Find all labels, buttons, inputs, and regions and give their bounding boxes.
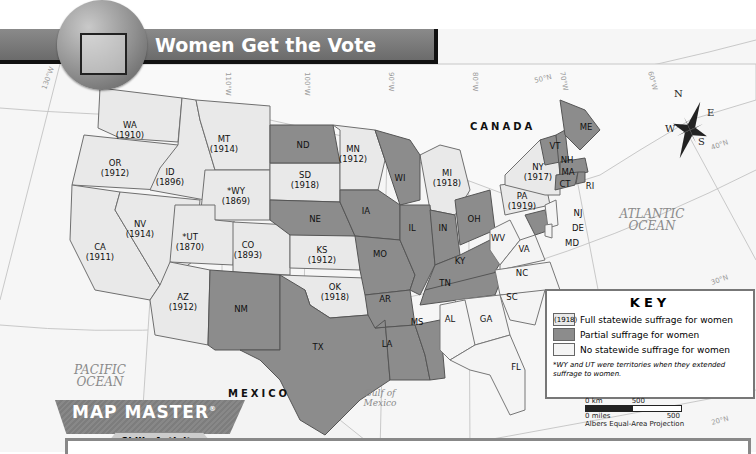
svg-text:(1896): (1896) [156, 177, 184, 187]
svg-text:90°W: 90°W [387, 72, 395, 91]
svg-text:SD: SD [299, 170, 311, 180]
svg-text:100°W: 100°W [303, 72, 311, 96]
svg-text:NY: NY [532, 162, 544, 172]
map-master-logo: MAP MASTER® [72, 402, 217, 422]
svg-text:*UT: *UT [182, 232, 198, 242]
svg-text:NV: NV [134, 219, 146, 229]
svg-text:DE: DE [572, 223, 584, 233]
svg-text:ME: ME [580, 122, 593, 132]
svg-text:(1914): (1914) [210, 144, 238, 154]
svg-text:ND: ND [297, 140, 310, 150]
map-key: KEY (1918) Full statewide suffrage for w… [545, 289, 755, 399]
svg-text:(1910): (1910) [116, 130, 144, 140]
svg-text:NE: NE [309, 214, 321, 224]
state-RI [576, 172, 585, 184]
swatch-none [553, 343, 575, 356]
svg-text:MT: MT [218, 134, 231, 144]
svg-text:(1869): (1869) [222, 196, 250, 206]
svg-text:(1918): (1918) [321, 292, 349, 302]
svg-text:VT: VT [549, 141, 561, 151]
svg-text:IN: IN [439, 223, 448, 233]
svg-text:MD: MD [565, 238, 579, 248]
svg-text:80°W: 80°W [471, 72, 479, 91]
svg-text:(1917): (1917) [524, 172, 552, 182]
svg-text:W: W [665, 123, 676, 134]
state-DE [545, 224, 552, 238]
svg-text:AZ: AZ [177, 292, 189, 302]
globe-locator-box [80, 33, 127, 75]
svg-text:WV: WV [491, 233, 505, 243]
label-gulf: Gulf of [365, 388, 397, 398]
svg-text:PA: PA [517, 191, 528, 201]
svg-text:TN: TN [438, 278, 451, 288]
svg-text:SC: SC [506, 292, 517, 302]
key-note: *WY and UT were territories when they ex… [553, 361, 747, 379]
svg-text:(1912): (1912) [308, 255, 336, 265]
svg-text:S: S [698, 136, 705, 147]
key-item-full: (1918) Full statewide suffrage for women [553, 313, 747, 326]
swatch-full: (1918) [553, 313, 575, 326]
svg-text:MS: MS [411, 317, 424, 327]
label-canada: CANADA [470, 121, 535, 132]
svg-text:NJ: NJ [574, 208, 583, 218]
svg-text:NM: NM [234, 304, 248, 314]
svg-text:(1918): (1918) [433, 178, 461, 188]
svg-text:FL: FL [511, 362, 521, 372]
label-mexico: MEXICO [228, 388, 290, 399]
svg-text:(1919): (1919) [508, 201, 536, 211]
svg-text:IA: IA [362, 206, 371, 216]
svg-text:NH: NH [561, 155, 574, 165]
svg-text:(1912): (1912) [101, 168, 129, 178]
svg-text:(1893): (1893) [234, 250, 262, 260]
svg-text:OCEAN: OCEAN [629, 219, 676, 233]
key-item-none: No statewide suffrage for women [553, 343, 747, 356]
svg-text:TX: TX [311, 342, 323, 352]
svg-text:WI: WI [395, 173, 406, 183]
svg-text:GA: GA [480, 314, 493, 324]
svg-text:MN: MN [346, 144, 360, 154]
svg-text:E: E [707, 107, 714, 118]
svg-text:OR: OR [109, 158, 122, 168]
svg-text:CT: CT [559, 179, 571, 189]
svg-text:*WY: *WY [227, 186, 246, 196]
svg-text:OH: OH [467, 214, 480, 224]
svg-text:WA: WA [123, 120, 137, 130]
svg-text:(1918): (1918) [291, 180, 319, 190]
svg-text:(1911): (1911) [86, 252, 114, 262]
svg-text:OK: OK [329, 282, 342, 292]
key-title: KEY [553, 295, 747, 310]
svg-text:NC: NC [516, 268, 528, 278]
scale-bar: 0 km500 0 miles500 Albers Equal-Area Pro… [585, 397, 715, 428]
swatch-partial [553, 328, 575, 341]
svg-text:AL: AL [445, 314, 456, 324]
svg-text:N: N [674, 88, 683, 99]
svg-text:(1912): (1912) [339, 154, 367, 164]
svg-text:(1912): (1912) [169, 302, 197, 312]
svg-text:OCEAN: OCEAN [77, 375, 124, 389]
svg-text:MI: MI [442, 168, 452, 178]
svg-text:ID: ID [165, 167, 175, 177]
svg-text:KS: KS [317, 245, 328, 255]
svg-text:MO: MO [373, 249, 387, 259]
svg-text:VA: VA [518, 244, 529, 254]
svg-text:MA: MA [561, 167, 574, 177]
activity-panel [65, 438, 751, 454]
svg-text:CO: CO [242, 240, 255, 250]
svg-text:(1914): (1914) [126, 229, 154, 239]
svg-text:IL: IL [408, 223, 416, 233]
svg-text:CA: CA [94, 242, 106, 252]
map-title: Women Get the Vote [155, 34, 376, 56]
svg-text:Mexico: Mexico [363, 398, 398, 408]
svg-text:AR: AR [379, 294, 391, 304]
svg-text:(1870): (1870) [176, 242, 204, 252]
svg-text:LA: LA [382, 339, 393, 349]
svg-text:RI: RI [586, 181, 594, 191]
svg-text:KY: KY [455, 256, 466, 266]
key-item-partial: Partial suffrage for women [553, 328, 747, 341]
svg-text:110°W: 110°W [224, 72, 232, 96]
